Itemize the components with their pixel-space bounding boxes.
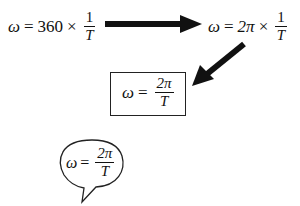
equation-radians: ω = 2π × 1 T [208,10,287,43]
times-sign: × [259,17,269,37]
denominator: T [277,27,285,43]
omega-symbol: ω [66,154,77,172]
omega-symbol: ω [208,17,220,37]
fraction: 1 T [84,10,96,43]
omega-symbol: ω [8,17,20,37]
denominator: T [101,163,109,179]
arrow-down-left-icon [192,44,244,86]
times-sign: × [67,17,77,37]
equals-sign: = [138,83,148,103]
numerator: 2π [95,146,114,163]
coefficient: 2π [238,17,255,37]
equation-boxed: ω = 2π T [122,76,174,109]
fraction: 2π T [155,76,174,109]
numerator: 1 [275,10,287,27]
numerator: 1 [84,10,96,27]
equation-degrees: ω = 360 × 1 T [8,10,95,43]
denominator: T [85,27,93,43]
arrow-right-icon [105,15,202,33]
fraction: 1 T [275,10,287,43]
numerator: 2π [155,76,174,93]
omega-symbol: ω [122,83,134,103]
equals-sign: = [80,154,89,172]
fraction: 2π T [95,146,114,179]
equals-sign: = [24,17,34,37]
denominator: T [160,93,168,109]
equation-speech-bubble: ω = 2π T [66,146,114,179]
coefficient: 360 [38,17,64,37]
equals-sign: = [224,17,234,37]
